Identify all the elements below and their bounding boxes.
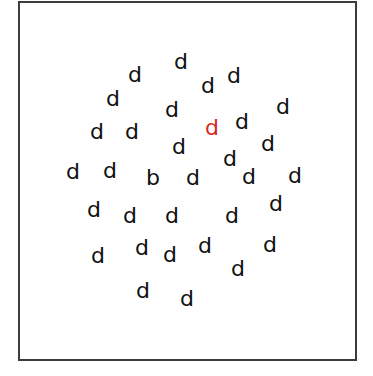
distractor-letter-d: d — [172, 136, 186, 158]
distractor-letter-d: d — [66, 161, 80, 183]
distractor-letter-d: d — [186, 167, 200, 189]
distractor-letter-d: d — [223, 148, 237, 170]
distractor-letter-d: d — [128, 64, 142, 86]
distractor-letter-d: d — [165, 205, 179, 227]
distractor-letter-d: d — [103, 160, 117, 182]
distractor-letter-d: d — [201, 75, 215, 97]
distractor-letter-d: d — [174, 51, 188, 73]
distractor-letter-d: d — [180, 288, 194, 310]
distractor-letter-d: d — [106, 88, 120, 110]
distractor-letter-d: d — [263, 234, 277, 256]
target-letter-b: b — [146, 167, 160, 189]
distractor-letter-d: d — [123, 205, 137, 227]
highlighted-letter-d: d — [205, 117, 219, 139]
distractor-letter-d: d — [276, 96, 290, 118]
distractor-letter-d: d — [165, 99, 179, 121]
distractor-letter-d: d — [235, 111, 249, 133]
distractor-letter-d: d — [125, 121, 139, 143]
distractor-letter-d: d — [225, 205, 239, 227]
distractor-letter-d: d — [135, 237, 149, 259]
distractor-letter-d: d — [231, 258, 245, 280]
distractor-letter-d: d — [261, 133, 275, 155]
distractor-letter-d: d — [242, 166, 256, 188]
distractor-letter-d: d — [136, 280, 150, 302]
distractor-letter-d: d — [269, 193, 283, 215]
distractor-letter-d: d — [163, 244, 177, 266]
distractor-letter-d: d — [90, 121, 104, 143]
distractor-letter-d: d — [198, 235, 212, 257]
distractor-letter-d: d — [87, 199, 101, 221]
distractor-letter-d: d — [91, 245, 105, 267]
distractor-letter-d: d — [288, 165, 302, 187]
distractor-letter-d: d — [227, 65, 241, 87]
